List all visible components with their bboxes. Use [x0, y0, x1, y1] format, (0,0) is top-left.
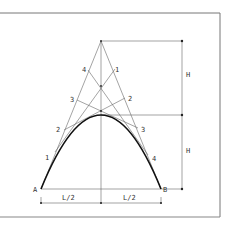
dimension-dots [40, 40, 183, 204]
right-division-3: 3 [141, 126, 145, 134]
left-division-3: 3 [70, 96, 74, 104]
half-span-right-label: L/2 [123, 194, 136, 202]
height-lower-label: H [186, 147, 190, 155]
height-upper-label: H [186, 71, 190, 79]
right-division-1: 1 [115, 66, 119, 74]
right-division-2: 2 [128, 95, 132, 103]
point-a-label: A [33, 186, 38, 194]
point-b-label: B [163, 186, 167, 194]
tangent-lines [41, 41, 161, 204]
right-division-4: 4 [152, 155, 156, 163]
dimension-lines [41, 41, 182, 204]
parabola-diagram: A B 1 2 3 4 1 2 3 4 H H L/2 L/2 [0, 0, 228, 231]
half-span-left-label: L/2 [62, 194, 75, 202]
left-division-2: 2 [56, 126, 60, 134]
left-division-4: 4 [82, 66, 86, 74]
left-division-1: 1 [45, 154, 49, 162]
